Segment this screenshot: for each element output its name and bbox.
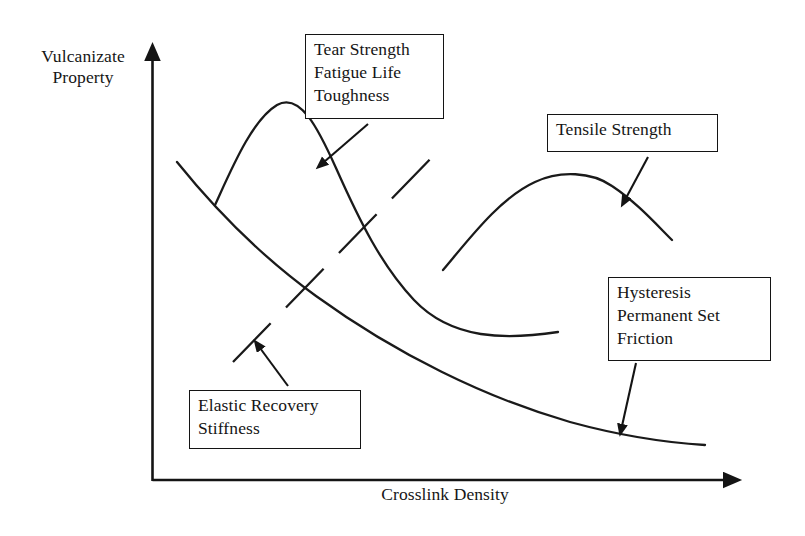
- callout-tear-strength: Tear Strength Fatigue Life Toughness: [305, 34, 444, 119]
- arrow-elastic-recovery: [260, 348, 288, 386]
- arrow-tensile-strength: [626, 157, 648, 198]
- y-axis-label: Vulcanizate Property: [24, 46, 142, 87]
- vulcanizate-property-figure: Vulcanizate Property Crosslink Density T…: [0, 0, 805, 536]
- callout-tensile-strength: Tensile Strength: [547, 114, 718, 152]
- curve-tensile-strength: [443, 174, 672, 270]
- arrow-hysteresis: [622, 363, 636, 426]
- callout-hysteresis: Hysteresis Permanent Set Friction: [608, 277, 771, 361]
- arrow-tear-strength: [324, 124, 368, 162]
- curve-tear-strength: [215, 102, 558, 336]
- callout-elastic-recovery: Elastic Recovery Stiffness: [189, 390, 361, 449]
- x-axis-label: Crosslink Density: [325, 484, 565, 505]
